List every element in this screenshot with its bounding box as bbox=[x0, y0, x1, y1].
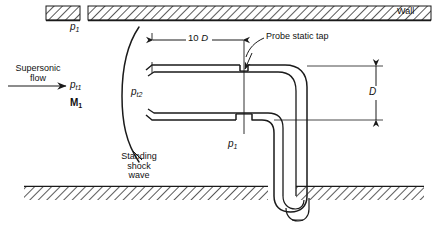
bottom-wall-right-segment bbox=[296, 187, 424, 201]
top-wall-left-segment bbox=[46, 6, 80, 21]
total-pressure-downstream-label: pt2 bbox=[131, 87, 142, 98]
mach-upstream-label: M1 bbox=[70, 98, 82, 109]
flow-caption: Supersonicflow bbox=[5, 64, 71, 83]
upstream-static-pressure-label: p1 bbox=[70, 22, 79, 33]
top-wall-right-segment bbox=[88, 6, 431, 21]
dimension-10d-label: 10 D bbox=[181, 33, 215, 43]
diagram-vector-layer bbox=[0, 0, 435, 234]
probe-static-tap-label: Probe static tap bbox=[266, 32, 329, 42]
dimension-d-label: D bbox=[369, 87, 376, 98]
standing-shock-wave-label: Standingshockwave bbox=[110, 152, 168, 181]
total-pressure-upstream-label: pt1 bbox=[70, 80, 81, 91]
probe-static-pressure-label: p1 bbox=[228, 139, 237, 150]
figure-canvas: Wall p1 Supersonicflow pt1 M1 pt2 Standi… bbox=[0, 0, 435, 234]
dimension-d bbox=[274, 66, 383, 120]
bottom-wall-left-segment bbox=[24, 187, 268, 201]
wall-label: Wall bbox=[397, 7, 414, 17]
